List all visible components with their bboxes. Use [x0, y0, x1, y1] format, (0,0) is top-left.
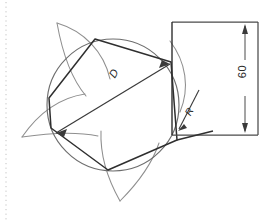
- construction-arc-group: [22, 23, 185, 201]
- height-arrowhead-top: [242, 24, 248, 34]
- height-dimension-group: [242, 24, 248, 133]
- drawing-page: 60 D R: [0, 0, 269, 223]
- construction-arc-upper-left-b: [57, 23, 86, 96]
- construction-arc-bottom-b: [120, 143, 159, 201]
- technical-drawing-canvas: [0, 0, 269, 223]
- inscribed-hexagon: [49, 39, 177, 170]
- height-arrowhead-bottom: [242, 123, 248, 133]
- height-dimension-label: 60: [237, 65, 248, 78]
- construction-arc-upper-left-a: [57, 23, 110, 79]
